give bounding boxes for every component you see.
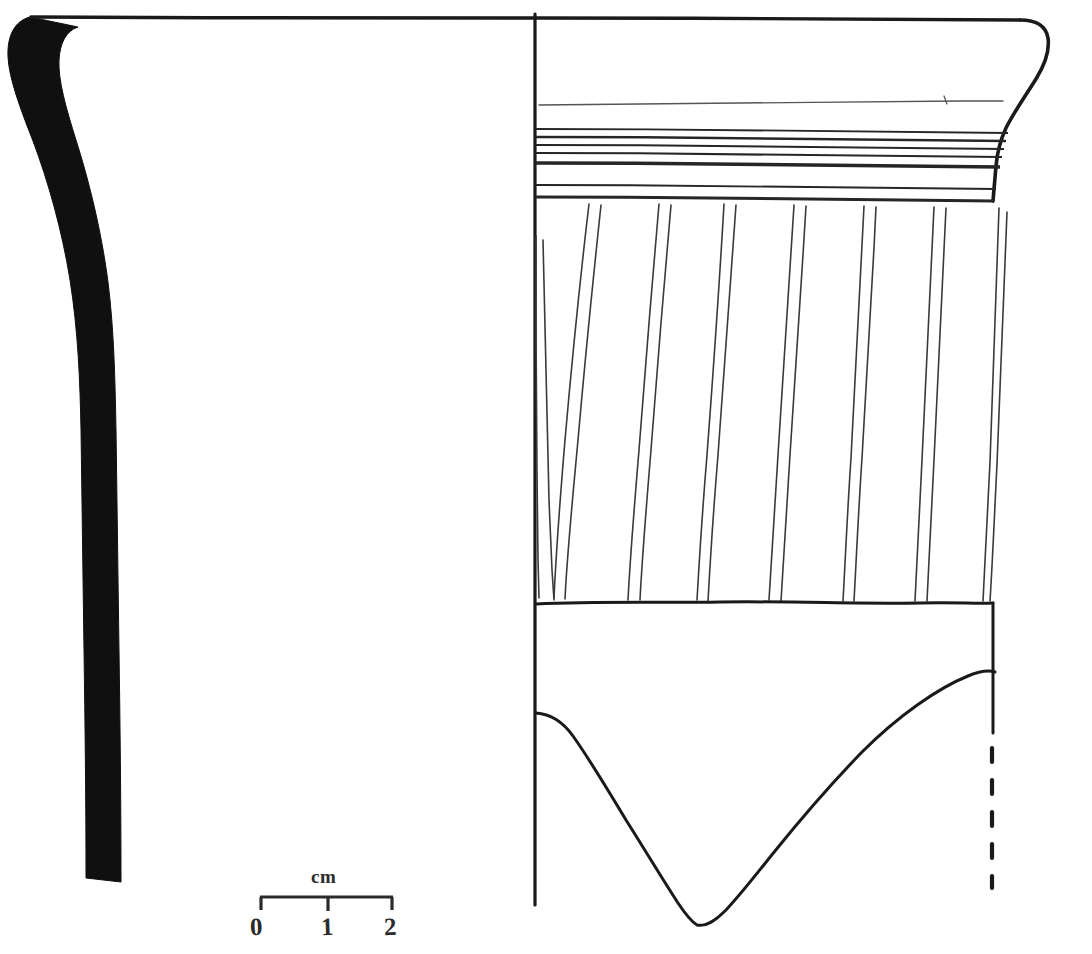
groove-band-7 — [535, 197, 994, 201]
groove-band-5 — [535, 163, 1000, 167]
grooved-band-zone — [535, 129, 1008, 201]
comb-stroke-pair-1b — [543, 240, 554, 600]
comb-stroke-pair-2a — [554, 204, 589, 598]
comb-stroke-pair-4b — [708, 205, 736, 601]
comb-stroke-pair-5b — [781, 206, 806, 601]
section-profile-group — [8, 17, 121, 882]
surface-tick-mark — [944, 96, 947, 104]
comb-stroke-pair-3b — [640, 205, 671, 600]
scale-bar-label-0: 0 — [250, 913, 263, 941]
pottery-illustration-figure: cm 0 1 2 — [0, 0, 1092, 954]
scale-bar-group — [260, 897, 393, 911]
vessel-wall-section-solid — [8, 17, 121, 882]
comb-stroke-pair-7b — [927, 208, 946, 601]
comb-stroke-pair-6a — [843, 206, 864, 601]
rim-top-line — [31, 17, 1020, 20]
scale-bar-label-1: 1 — [321, 913, 334, 941]
interior-surface-line — [539, 101, 1003, 105]
decoration-zone-lower-boundary — [536, 602, 993, 604]
scale-bar-unit-caption: cm — [311, 866, 336, 888]
combed-decoration-zone — [536, 204, 1007, 601]
comb-stroke-pair-4a — [697, 204, 724, 600]
groove-band-2 — [535, 137, 1006, 141]
groove-band-1 — [535, 129, 1008, 133]
sherd-break-contour — [536, 671, 995, 925]
comb-stroke-pair-7a — [915, 207, 934, 601]
comb-stroke-pair-8a — [983, 208, 999, 601]
groove-band-3 — [535, 145, 1004, 149]
comb-stroke-pair-6b — [854, 207, 876, 601]
pottery-drawing-canvas — [0, 0, 1092, 954]
groove-band-4 — [535, 153, 1002, 157]
scale-bar-label-2: 2 — [384, 913, 397, 941]
comb-stroke-pair-5a — [769, 205, 794, 600]
rim-outer-contour — [993, 20, 1048, 201]
comb-stroke-pair-2b — [565, 205, 601, 599]
exterior-view-group — [535, 14, 1048, 925]
groove-band-6 — [535, 185, 996, 189]
